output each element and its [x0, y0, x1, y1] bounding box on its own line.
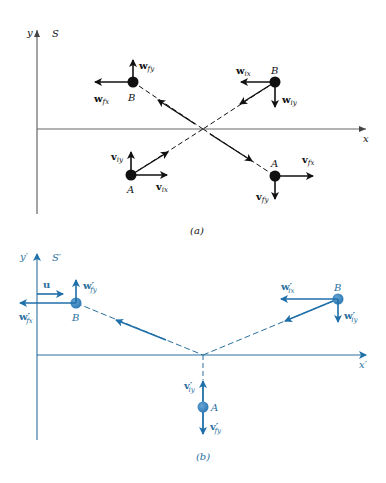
particle-b-prime-final-label: B: [71, 312, 79, 323]
v-fy-label: vfy: [255, 191, 269, 204]
a-final-velocity-arrow: [210, 134, 252, 161]
w-ix-label: wix: [235, 65, 251, 78]
b-prime-final-velocity-arrow: [116, 320, 166, 340]
v-prime-fy-label: v′fy: [209, 421, 222, 435]
b-initial-velocity-arrow: [240, 82, 275, 104]
w-fx-label: wfx: [93, 93, 109, 106]
w-prime-iy-label: w′iy: [343, 310, 358, 324]
particle-a-initial-label: A: [126, 184, 134, 195]
x-prime-axis-label: x′: [359, 359, 368, 370]
particle-a-prime-label: A: [210, 402, 218, 413]
collision-diagram: y S x wfy wfx B wix wiy B viy vix A: [0, 0, 386, 483]
particle-b-initial-label: B: [270, 65, 278, 76]
v-fx-label: vfx: [301, 154, 314, 167]
frame-prime-label: S′: [52, 252, 62, 263]
u-label: u: [43, 279, 50, 290]
frame-label: S: [52, 28, 59, 39]
w-iy-label: wiy: [281, 94, 298, 107]
w-fy-label: wfy: [138, 60, 155, 73]
w-prime-fy-label: w′fy: [82, 280, 98, 294]
particle-a-prime: [198, 402, 209, 413]
particle-b-final-label: B: [127, 92, 135, 103]
caption-b: (b): [196, 451, 210, 462]
panel-a: y S x wfy wfx B wix wiy B viy vix A: [26, 27, 369, 236]
b-final-velocity-arrow: [158, 100, 195, 124]
particle-b-prime-initial-label: B: [333, 282, 341, 293]
x-axis-label: x: [363, 133, 369, 144]
v-ix-label: vix: [155, 181, 168, 194]
v-prime-iy-label: v′iy: [183, 380, 196, 394]
panel-b: y′ S′ x′ u w′fy w′fx B w′ix w′iy B v′iy …: [18, 251, 368, 462]
caption-a: (a): [190, 225, 204, 236]
w-prime-ix-label: w′ix: [280, 281, 294, 295]
y-prime-axis-label: y′: [19, 251, 29, 262]
a-initial-velocity-arrow: [131, 152, 168, 175]
w-prime-fx-label: w′fx: [18, 311, 33, 325]
particle-a-final-label: A: [270, 158, 278, 169]
y-axis-label: y: [26, 27, 33, 38]
b-prime-initial-velocity-arrow: [285, 299, 338, 321]
v-iy-label: viy: [110, 151, 124, 164]
